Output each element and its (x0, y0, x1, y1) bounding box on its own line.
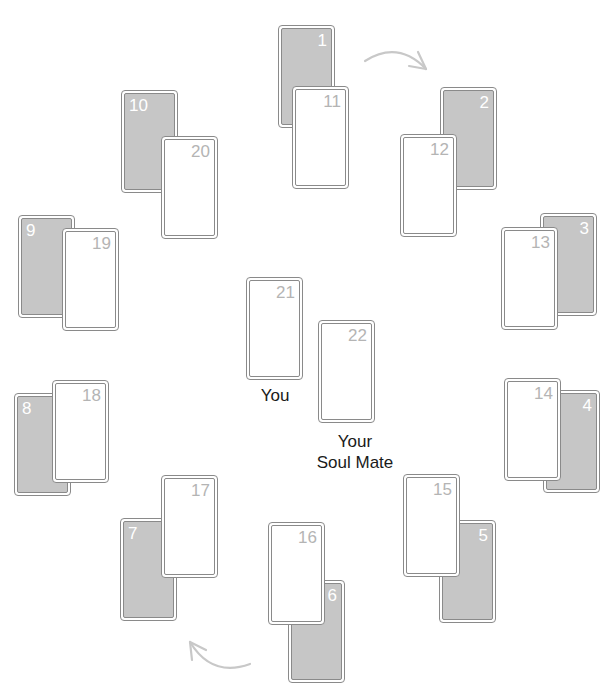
clockwise-arrow-bottom-icon (190, 642, 250, 668)
direction-arrows (0, 0, 615, 697)
clockwise-arrow-top-icon (365, 52, 426, 69)
